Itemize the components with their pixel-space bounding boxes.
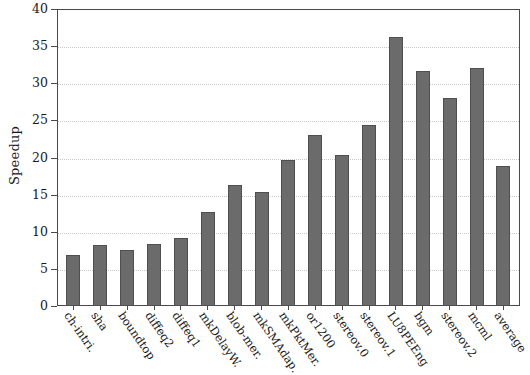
bar-slot	[409, 9, 436, 306]
x-label-slot: ch-intri.	[60, 309, 87, 371]
bar-slot	[490, 9, 517, 306]
bar[interactable]	[120, 250, 134, 306]
y-axis-tick-label: 40	[8, 3, 48, 16]
bar[interactable]	[335, 155, 349, 306]
bar-slot	[114, 9, 141, 306]
x-axis-label: average	[492, 310, 528, 355]
x-label-slot: mkSMAdap.	[248, 309, 275, 371]
bar-slot	[194, 9, 221, 306]
bar[interactable]	[389, 37, 403, 306]
bar[interactable]	[228, 185, 242, 306]
x-axis-label: sha	[89, 310, 110, 333]
bar-slot	[463, 9, 490, 306]
y-axis-tick-label: 35	[8, 40, 48, 53]
bar-slot	[329, 9, 356, 306]
bar[interactable]	[496, 166, 510, 306]
x-label-slot: mcml	[463, 309, 490, 371]
bar[interactable]	[362, 125, 376, 306]
bar-slot	[436, 9, 463, 306]
x-label-slot: mkDelayW.	[194, 309, 221, 371]
x-axis-labels: ch-intri.shaboundtopdiffeq2diffeq1mkDela…	[57, 309, 520, 371]
y-axis-tick-label: 5	[8, 263, 48, 276]
x-label-slot: stereov.1	[356, 309, 383, 371]
x-axis-label: bgm	[411, 310, 435, 338]
bar-slot	[356, 9, 383, 306]
x-label-slot: blob-mer.	[221, 309, 248, 371]
bar[interactable]	[93, 245, 107, 306]
bar-slot	[302, 9, 329, 306]
bar[interactable]	[201, 212, 215, 306]
x-label-slot: boundtop	[114, 309, 141, 371]
bar[interactable]	[281, 160, 295, 306]
bar[interactable]	[470, 68, 484, 306]
bar[interactable]	[416, 71, 430, 306]
bar[interactable]	[147, 244, 161, 306]
x-label-slot: LU8PEEng	[383, 309, 410, 371]
y-axis-tick-label: 0	[8, 300, 48, 313]
bar-slot	[87, 9, 114, 306]
bar-slot	[60, 9, 87, 306]
y-axis-tick-label: 25	[8, 114, 48, 127]
bars-container	[57, 9, 520, 306]
x-label-slot: diffeq1	[168, 309, 195, 371]
bar-slot	[168, 9, 195, 306]
y-axis-tick-label: 15	[8, 189, 48, 202]
y-axis-tick-label: 20	[8, 152, 48, 165]
x-label-slot: diffeq2	[141, 309, 168, 371]
x-label-slot: stereov.2	[436, 309, 463, 371]
bar[interactable]	[66, 255, 80, 306]
x-label-slot: sha	[87, 309, 114, 371]
bar-slot	[141, 9, 168, 306]
x-label-slot: stereov.0	[329, 309, 356, 371]
x-label-slot: bgm	[409, 309, 436, 371]
x-label-slot: or1200	[302, 309, 329, 371]
bar[interactable]	[443, 98, 457, 306]
bar[interactable]	[174, 238, 188, 306]
bar-slot	[248, 9, 275, 306]
bar[interactable]	[308, 135, 322, 306]
x-axis-label: mcml	[465, 310, 493, 343]
bar-slot	[383, 9, 410, 306]
bar-slot	[221, 9, 248, 306]
x-label-slot: mkPktMer.	[275, 309, 302, 371]
y-axis-tick-label: 10	[8, 226, 48, 239]
x-label-slot: average	[490, 309, 517, 371]
bar-slot	[275, 9, 302, 306]
bar[interactable]	[255, 192, 269, 306]
y-axis-tick-label: 30	[8, 77, 48, 90]
